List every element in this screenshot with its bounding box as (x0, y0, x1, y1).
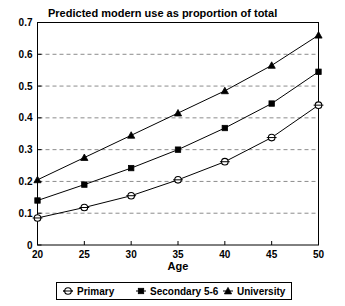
chart-title: Predicted modern use as proportion of to… (48, 7, 277, 19)
y-tick-label: 0.5 (19, 81, 33, 92)
x-tick-label: 45 (266, 249, 278, 260)
data-point-marker (82, 182, 87, 187)
data-point-marker (175, 147, 180, 152)
y-tick-label: 0.4 (19, 112, 33, 123)
y-tick-label: 0.3 (19, 144, 33, 155)
legend-marker (138, 288, 143, 293)
chart-container: Predicted modern use as proportion of to… (0, 0, 345, 306)
y-tick-label: 0.2 (19, 176, 33, 187)
x-axis-label: Age (168, 260, 189, 272)
x-tick-label: 35 (172, 249, 184, 260)
line-chart: Predicted modern use as proportion of to… (0, 0, 345, 306)
x-tick-label: 40 (219, 249, 231, 260)
legend-label: University (237, 286, 286, 297)
x-tick-label: 50 (313, 249, 325, 260)
y-tick-label: 0.7 (19, 17, 33, 28)
data-point-marker (128, 165, 133, 170)
y-tick-label: 0.6 (19, 49, 33, 60)
data-point-marker (222, 125, 227, 130)
x-tick-label: 30 (126, 249, 138, 260)
data-point-marker (35, 198, 40, 203)
legend-entries: PrimarySecondary 5-6University (63, 286, 286, 297)
data-point-marker (316, 69, 321, 74)
legend-label: Primary (77, 286, 115, 297)
chart-legend: PrimarySecondary 5-6University (57, 283, 292, 300)
legend-label: Secondary 5-6 (150, 286, 219, 297)
x-tick-label: 20 (32, 249, 44, 260)
y-tick-label: 0.1 (19, 208, 33, 219)
x-tick-label: 25 (79, 249, 91, 260)
data-point-marker (269, 101, 274, 106)
